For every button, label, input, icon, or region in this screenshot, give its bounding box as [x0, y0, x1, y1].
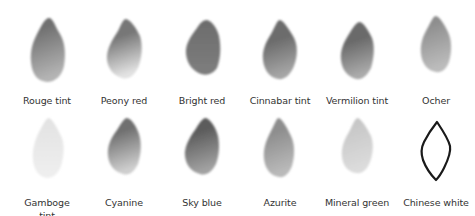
swatch-label: Azurite — [240, 196, 320, 209]
swatch-label: Chinese white — [396, 196, 475, 209]
leaf-swatch-icon — [25, 112, 69, 184]
swatch-label: Gamboge tint — [7, 196, 87, 216]
leaf-swatch-icon — [256, 14, 304, 86]
swatch-label: Peony red — [84, 94, 164, 107]
swatch-label: Sky blue — [162, 196, 242, 209]
leaf-swatch-icon — [257, 112, 303, 184]
swatch-label: Ocher — [396, 94, 475, 107]
leaf-swatch-icon — [414, 10, 458, 82]
leaf-swatch-icon — [25, 14, 69, 86]
swatch-label: Cyanine — [84, 196, 164, 209]
swatch-label: Mineral green — [317, 196, 397, 209]
swatch-label: Bright red — [162, 94, 242, 107]
leaf-swatch-icon — [334, 112, 380, 184]
swatch-label: Rouge tint — [7, 94, 87, 107]
leaf-swatch-icon — [179, 14, 225, 86]
swatch-label: Vermilion tint — [317, 94, 397, 107]
leaf-swatch-icon — [178, 110, 226, 182]
leaf-swatch-icon — [100, 14, 148, 86]
leaf-swatch-icon — [334, 14, 380, 86]
leaf-outline-icon — [416, 116, 456, 188]
swatch-label: Cinnabar tint — [240, 94, 320, 107]
leaf-swatch-icon — [101, 110, 147, 182]
